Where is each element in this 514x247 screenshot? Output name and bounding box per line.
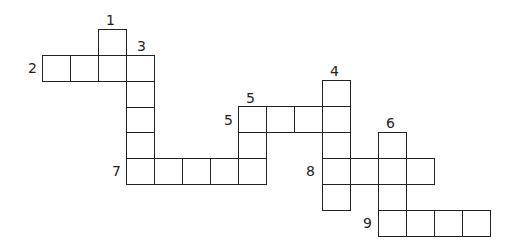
crossword-cell[interactable] xyxy=(126,81,155,108)
crossword-cell[interactable] xyxy=(322,80,351,107)
crossword-cell[interactable] xyxy=(322,184,351,211)
clue-number: 5 xyxy=(246,91,255,105)
crossword-cell[interactable] xyxy=(266,106,295,133)
crossword-cell[interactable] xyxy=(98,55,127,82)
clue-number: 8 xyxy=(306,164,315,178)
crossword-cell[interactable] xyxy=(294,106,323,133)
clue-number: 4 xyxy=(330,64,339,78)
clue-number: 1 xyxy=(106,13,115,27)
clue-number: 6 xyxy=(386,116,395,130)
crossword-cell[interactable] xyxy=(378,184,407,211)
clue-number: 9 xyxy=(363,216,372,230)
clue-number: 5 xyxy=(224,113,233,127)
crossword-cell[interactable] xyxy=(378,132,407,159)
crossword-cell[interactable] xyxy=(238,132,267,159)
crossword-cell[interactable] xyxy=(42,55,71,82)
crossword-cell[interactable] xyxy=(434,210,463,237)
crossword-cell[interactable] xyxy=(406,210,435,237)
crossword-cell[interactable] xyxy=(238,106,267,133)
crossword-cell[interactable] xyxy=(378,158,407,185)
crossword-cell[interactable] xyxy=(406,158,435,185)
crossword-cell[interactable] xyxy=(462,210,491,237)
crossword-cell[interactable] xyxy=(322,106,351,133)
crossword-cell[interactable] xyxy=(126,55,155,82)
crossword-cell[interactable] xyxy=(238,158,267,185)
crossword-cell[interactable] xyxy=(378,210,407,237)
crossword-cell[interactable] xyxy=(126,158,155,185)
crossword-cell[interactable] xyxy=(322,158,351,185)
crossword-cell[interactable] xyxy=(350,158,379,185)
crossword-cell[interactable] xyxy=(98,29,127,56)
clue-number: 7 xyxy=(112,164,121,178)
crossword-grid: 1234556789 xyxy=(0,0,514,247)
crossword-cell[interactable] xyxy=(70,55,99,82)
clue-number: 2 xyxy=(28,61,37,75)
crossword-cell[interactable] xyxy=(126,132,155,159)
crossword-cell[interactable] xyxy=(154,158,183,185)
crossword-cell[interactable] xyxy=(210,158,239,185)
clue-number: 3 xyxy=(137,39,146,53)
crossword-cell[interactable] xyxy=(182,158,211,185)
crossword-cell[interactable] xyxy=(322,132,351,159)
crossword-cell[interactable] xyxy=(126,107,155,134)
